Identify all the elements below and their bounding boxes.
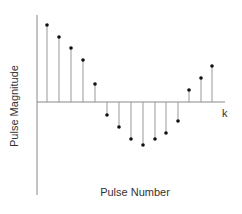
stem-marker xyxy=(117,125,121,129)
axis-end-label: k xyxy=(222,107,228,119)
stem-marker xyxy=(164,131,168,135)
stem-marker xyxy=(153,137,157,141)
stem-marker xyxy=(105,113,109,117)
stem-marker xyxy=(45,23,49,27)
stem-marker xyxy=(210,64,214,68)
stem-marker xyxy=(93,82,97,86)
stem-marker xyxy=(69,46,73,50)
x-axis-label: Pulse Number xyxy=(0,186,242,198)
stem-marker xyxy=(129,137,133,141)
stem-marker xyxy=(176,119,180,123)
stem-marker xyxy=(81,58,85,62)
stem-chart: Pulse Magnitude Pulse Number k xyxy=(0,0,242,214)
stem-marker xyxy=(141,143,145,147)
stem-marker xyxy=(187,88,191,92)
stem-marker xyxy=(199,76,203,80)
stem-marker xyxy=(57,35,61,39)
y-axis-label: Pulse Magnitude xyxy=(8,65,20,147)
plot-area xyxy=(0,0,242,214)
